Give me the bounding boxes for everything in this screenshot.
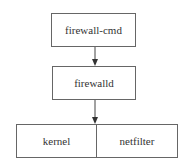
netfilter-label: netfilter [120, 135, 155, 147]
firewall-cmd-node: firewall-cmd [51, 13, 136, 47]
arrowhead-icon [92, 59, 98, 66]
firewall-cmd-label: firewall-cmd [65, 24, 122, 36]
kernel-label: kernel [43, 135, 70, 147]
kernel-netfilter-node: kernel netfilter [16, 124, 178, 158]
firewalld-node: firewalld [52, 66, 136, 100]
firewalld-label: firewalld [74, 77, 114, 89]
netfilter-cell: netfilter [97, 125, 177, 157]
kernel-cell: kernel [17, 125, 96, 157]
arrowhead-icon [92, 117, 98, 124]
